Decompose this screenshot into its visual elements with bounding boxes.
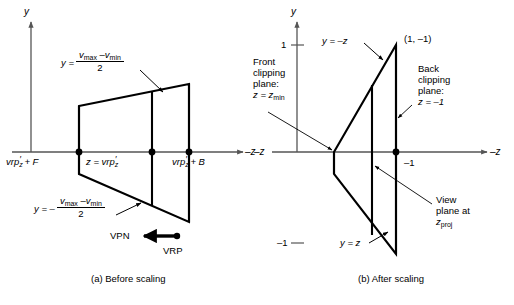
panel-b-leader-y-neg-z <box>364 43 383 60</box>
panel-a-axes <box>12 22 243 152</box>
panel-b-view-plane-eq-sub: proj <box>441 221 453 228</box>
panel-b-back-clip-eq: z = –1 <box>418 96 476 107</box>
panel-a-eq-bot-den: 2 <box>57 208 105 219</box>
panel-a-label-back-base: vrp <box>172 156 185 167</box>
panel-a-eq-top-num-b: v <box>105 49 110 60</box>
panel-a-eq-top-num-a: v <box>79 49 84 60</box>
panel-b-leader-view-plane <box>375 166 432 204</box>
panel-a-label-center-prime: ′ <box>115 154 117 164</box>
panel-b-leader-front-clip <box>268 112 332 150</box>
panel-a-eq-bot-num-a-sub: max <box>65 200 78 207</box>
panel-a-label-back-plane: vrpz′+ B <box>172 156 205 168</box>
panel-a-equation-top-fraction: vmax –vmin 2 <box>76 49 124 73</box>
panel-a-eq-bot-num-b-sub: min <box>91 200 102 207</box>
panel-a-label-vpn: VPN <box>110 230 130 241</box>
panel-b-label-y-eq-z: y = z <box>340 237 360 248</box>
panel-b-tick-label-y-pos: 1 <box>281 39 286 50</box>
panel-a-dot-center <box>149 149 156 156</box>
panel-b-caption: (b) After scaling <box>358 273 424 284</box>
panel-a-leader-top <box>140 70 163 92</box>
panel-a-label-vrp: VRP <box>163 245 183 256</box>
panel-b-back-clip-line1: Back <box>418 63 476 74</box>
panel-a-label-front-rest: + F <box>24 156 38 167</box>
panel-b-front-clip-line3: plane: <box>253 78 309 89</box>
panel-b-leader-back-clip <box>398 105 412 118</box>
panel-b-back-clipping-label: Back clipping plane: z = –1 <box>418 63 476 107</box>
panel-a-eq-top-den: 2 <box>76 62 124 73</box>
panel-b-tick-label-z-neg: –1 <box>404 157 415 168</box>
panel-b-front-clip-line1: Front <box>253 56 309 67</box>
panel-b-front-clipping-label: Front clipping plane: z = zmin <box>253 56 309 101</box>
panel-b-z-axis-label-right: –z <box>490 146 501 157</box>
panel-b-front-clip-eq: z = z <box>253 89 273 100</box>
panel-b-label-corner-point: (1, –1) <box>404 33 431 44</box>
panel-b-dot-back <box>393 149 400 156</box>
panel-a-y-axis-label: y <box>24 6 29 17</box>
panel-a-equation-top: y = vmax –vmin 2 <box>61 50 124 74</box>
panel-b-front-clip-eq-sub: min <box>273 94 284 101</box>
panel-a-label-front-base: vrp <box>6 156 19 167</box>
panel-b-view-volume <box>334 45 396 254</box>
panel-a-vrp-dot <box>174 233 180 239</box>
panel-a-dot-front <box>76 149 83 156</box>
panel-a-eq-top-num-a-sub: max <box>84 54 97 61</box>
panel-a-label-center-base: z = vrp <box>86 156 115 167</box>
panel-a-vpn-arrow <box>144 233 180 239</box>
panel-a-eq-top-num-b-sub: min <box>110 54 121 61</box>
panel-b-back-clip-line2: clipping <box>418 74 476 85</box>
panel-b-view-plane-line1: View <box>436 194 492 205</box>
panel-a-equation-bottom-fraction: vmax –vmin 2 <box>57 195 105 219</box>
panel-b-front-clip-line2: clipping <box>253 67 309 78</box>
panel-a-label-front-plane: vrpz′+ F <box>6 156 38 168</box>
figure-root: y –z y = vmax –vmin 2 y = – vmax –vmin 2 <box>0 0 514 305</box>
panel-a-equation-bottom-lhs: y = – <box>34 203 55 214</box>
panel-a-eq-bot-num-b: v <box>86 195 91 206</box>
panel-a-eq-bot-num-a: v <box>60 195 65 206</box>
panel-b-back-clip-line3: plane: <box>418 85 476 96</box>
panel-a-caption: (a) Before scaling <box>91 273 165 284</box>
panel-b-label-y-eq-neg-z: y = –z <box>322 35 348 46</box>
panel-a-equation-top-lhs: y = <box>61 57 74 68</box>
panel-b-z-axis-label-left: –z <box>254 146 265 157</box>
panel-b-view-plane-label: View plane at zproj <box>436 194 492 228</box>
panel-a-leader-bottom <box>116 203 141 215</box>
panel-b-view-plane-line2: plane at <box>436 205 492 216</box>
panel-b-frustum-outline <box>334 45 396 254</box>
panel-b-tick-label-y-neg: –1 <box>277 237 288 248</box>
panel-a-label-center-plane: z = vrpz′ <box>86 156 120 168</box>
panel-a-equation-bottom: y = – vmax –vmin 2 <box>34 196 105 220</box>
panel-a-label-back-rest: + B <box>190 156 205 167</box>
panel-b-y-axis-label: y <box>291 6 296 17</box>
